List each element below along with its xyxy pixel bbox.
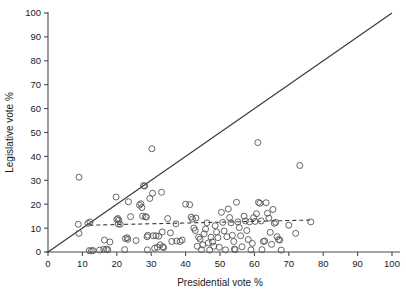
x-axis-title: Presidential vote %	[177, 277, 263, 288]
data-point	[225, 206, 231, 212]
data-point	[229, 232, 235, 238]
data-point	[179, 237, 185, 243]
x-tick-label: 10	[77, 258, 88, 269]
data-point	[205, 240, 211, 246]
data-point	[150, 190, 156, 196]
data-point	[297, 162, 303, 168]
data-point	[138, 201, 144, 207]
scatter-plot-figure: 0102030405060708090100 01020304050607080…	[0, 0, 406, 303]
data-point	[221, 228, 227, 234]
data-point	[159, 189, 165, 195]
data-point	[231, 238, 237, 244]
data-point	[149, 146, 155, 152]
data-point	[194, 243, 200, 249]
y-tick-label: 10	[30, 223, 41, 234]
data-point	[269, 241, 275, 247]
data-point	[133, 238, 139, 244]
x-tick-label: 100	[384, 258, 400, 269]
data-point	[224, 234, 230, 240]
data-point	[218, 209, 224, 215]
x-tick-label: 20	[112, 258, 123, 269]
data-point	[267, 229, 273, 235]
data-point	[173, 221, 179, 227]
data-point	[128, 214, 134, 220]
y-tick-label: 40	[30, 151, 41, 162]
data-point	[216, 244, 222, 250]
data-point-group	[75, 140, 314, 254]
data-point	[244, 227, 250, 233]
data-point	[197, 236, 203, 242]
y-tick-label: 100	[25, 7, 41, 18]
y-axis-title: Legislative vote %	[4, 92, 15, 173]
data-point	[239, 244, 245, 250]
y-tick-label: 70	[30, 79, 41, 90]
data-point	[196, 234, 202, 240]
x-tick-label: 60	[249, 258, 260, 269]
x-tick-label: 70	[284, 258, 295, 269]
data-point	[75, 221, 81, 227]
data-point	[125, 199, 131, 205]
x-tick-label: 30	[146, 258, 157, 269]
x-axis-ticks: 0102030405060708090100	[45, 252, 400, 269]
x-tick-label: 90	[352, 258, 363, 269]
y-tick-label: 30	[30, 175, 41, 186]
y-axis-ticks: 0102030405060708090100	[25, 7, 48, 257]
x-tick-label: 50	[215, 258, 226, 269]
diagonal-reference-line	[48, 13, 392, 252]
data-point	[236, 225, 242, 231]
y-tick-label: 60	[30, 103, 41, 114]
data-point	[187, 202, 193, 208]
x-tick-label: 0	[45, 258, 50, 269]
data-point	[238, 233, 244, 239]
data-point	[167, 230, 173, 236]
data-point	[270, 206, 276, 212]
y-tick-label: 90	[30, 31, 41, 42]
data-point	[255, 140, 261, 146]
y-tick-label: 0	[36, 246, 41, 257]
data-point	[177, 238, 183, 244]
data-point	[107, 239, 113, 245]
data-point	[263, 200, 269, 206]
data-point	[165, 216, 171, 222]
data-point	[214, 229, 220, 235]
data-point	[308, 219, 314, 225]
data-point	[76, 230, 82, 236]
data-point	[76, 174, 82, 180]
data-point	[249, 240, 255, 246]
data-point	[113, 194, 119, 200]
data-point	[286, 222, 292, 228]
x-tick-label: 80	[318, 258, 329, 269]
data-point	[212, 223, 218, 229]
y-tick-label: 20	[30, 199, 41, 210]
data-point	[215, 235, 221, 241]
x-tick-label: 40	[180, 258, 191, 269]
data-point	[159, 229, 165, 235]
data-point	[234, 199, 240, 205]
y-tick-label: 80	[30, 55, 41, 66]
data-point	[293, 230, 299, 236]
plot-canvas: 0102030405060708090100 01020304050607080…	[0, 0, 406, 303]
y-tick-label: 50	[30, 127, 41, 138]
